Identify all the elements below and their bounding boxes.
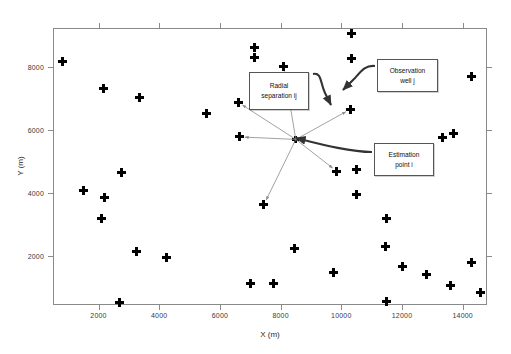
observation-well-marker xyxy=(234,98,243,107)
x-tick-label: 2000 xyxy=(90,312,106,319)
observation-well-marker xyxy=(132,247,141,256)
y-tick-right xyxy=(487,130,492,131)
x-tick xyxy=(463,305,464,310)
y-tick xyxy=(48,67,53,68)
observation-callout-line2: well j xyxy=(390,76,426,86)
x-axis-title: X (m) xyxy=(260,330,280,339)
radial-callout-line2: separation ij xyxy=(261,91,297,101)
x-tick-top xyxy=(220,23,221,28)
observation-well-marker xyxy=(250,43,259,52)
observation-well-callout: Observation well j xyxy=(377,59,438,92)
x-tick-label: 8000 xyxy=(272,312,288,319)
estimation-point-marker xyxy=(292,136,299,143)
observation-well-marker xyxy=(352,190,361,199)
x-tick xyxy=(159,305,160,310)
y-tick-label: 4000 xyxy=(28,190,44,197)
y-tick-right xyxy=(487,193,492,194)
observation-well-marker xyxy=(346,105,355,114)
x-tick-label: 4000 xyxy=(151,312,167,319)
observation-well-marker xyxy=(162,253,171,262)
y-tick xyxy=(48,193,53,194)
y-tick-label: 8000 xyxy=(28,64,44,71)
observation-well-marker xyxy=(352,165,361,174)
y-tick-label: 6000 xyxy=(28,127,44,134)
observation-well-marker xyxy=(398,262,407,271)
x-tick xyxy=(402,305,403,310)
observation-well-marker xyxy=(422,270,431,279)
x-tick-top xyxy=(402,23,403,28)
estimation-callout-line2: point i xyxy=(389,160,420,170)
observation-well-marker xyxy=(202,109,211,118)
y-tick-label: 2000 xyxy=(28,253,44,260)
observation-well-marker xyxy=(115,298,124,307)
observation-well-marker xyxy=(467,258,476,267)
observation-well-marker xyxy=(99,84,108,93)
observation-well-marker xyxy=(79,186,88,195)
x-tick-label: 10000 xyxy=(331,312,351,319)
y-tick xyxy=(48,130,53,131)
x-tick-top xyxy=(159,23,160,28)
x-tick-label: 6000 xyxy=(212,312,228,319)
observation-well-marker xyxy=(235,132,244,141)
x-tick xyxy=(99,305,100,310)
x-tick-top xyxy=(281,23,282,28)
observation-well-marker xyxy=(347,54,356,63)
observation-well-marker xyxy=(332,167,341,176)
observation-well-marker xyxy=(329,268,338,277)
observation-well-marker xyxy=(250,53,259,62)
x-tick xyxy=(341,305,342,310)
observation-well-marker xyxy=(381,242,390,251)
observation-callout-line1: Observation xyxy=(390,66,426,76)
observation-well-marker xyxy=(449,129,458,138)
observation-well-marker xyxy=(382,297,391,306)
estimation-callout-line1: Estimation xyxy=(389,150,420,160)
observation-well-marker xyxy=(259,200,268,209)
observation-well-marker xyxy=(446,281,455,290)
observation-well-marker xyxy=(135,93,144,102)
observation-well-marker xyxy=(467,72,476,81)
observation-well-marker xyxy=(100,193,109,202)
x-tick-top xyxy=(99,23,100,28)
x-tick xyxy=(281,305,282,310)
y-tick-right xyxy=(487,256,492,257)
observation-well-marker xyxy=(476,288,485,297)
observation-well-marker xyxy=(117,168,126,177)
observation-well-marker xyxy=(279,62,288,71)
x-tick-top xyxy=(463,23,464,28)
x-tick-label: 14000 xyxy=(452,312,472,319)
observation-well-marker xyxy=(269,279,278,288)
observation-well-marker xyxy=(97,214,106,223)
observation-well-marker xyxy=(438,133,447,142)
observation-well-marker xyxy=(290,244,299,253)
y-tick xyxy=(48,256,53,257)
x-tick-label: 12000 xyxy=(392,312,412,319)
observation-well-marker xyxy=(246,279,255,288)
y-axis-title: Y (m) xyxy=(16,156,25,175)
radial-separation-callout: Radial separation ij xyxy=(249,72,309,110)
observation-well-marker xyxy=(58,57,67,66)
estimation-point-callout: Estimation point i xyxy=(374,143,434,176)
observation-well-marker xyxy=(347,29,356,38)
x-tick xyxy=(220,305,221,310)
observation-well-marker xyxy=(382,214,391,223)
radial-callout-line1: Radial xyxy=(261,81,297,91)
y-tick-right xyxy=(487,67,492,68)
x-tick-top xyxy=(341,23,342,28)
scatter-plot-figure: 2000400060008000100001200014000 20004000… xyxy=(0,0,511,354)
